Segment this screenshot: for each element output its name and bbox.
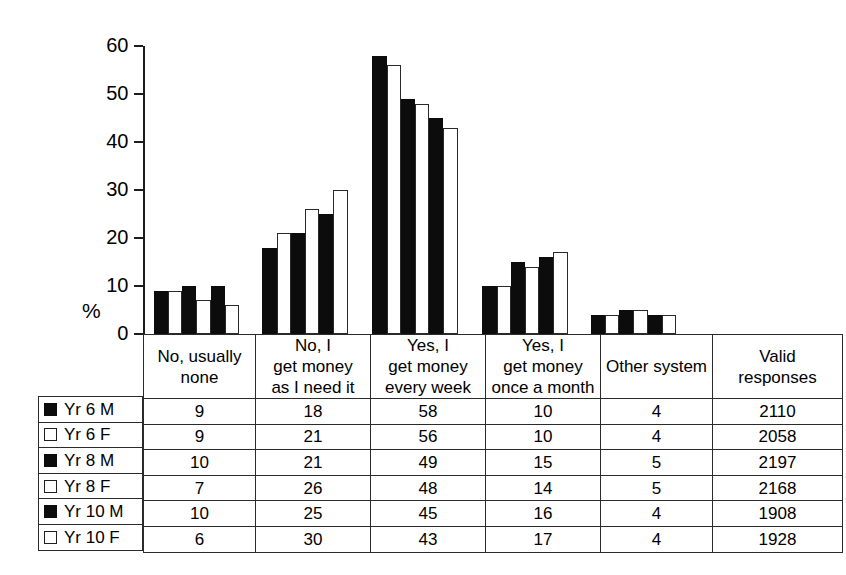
bar-group — [372, 46, 457, 334]
bar — [415, 104, 429, 334]
legend-label: Yr 8 F — [64, 476, 110, 497]
bar-group — [262, 46, 347, 334]
column-header-line: none — [146, 367, 253, 388]
table-cell: 4 — [601, 424, 713, 450]
table-cell: 2197 — [713, 450, 843, 476]
table-cell: 9 — [144, 424, 256, 450]
column-header-line: responses — [715, 367, 840, 388]
table-cell: 10 — [144, 501, 256, 527]
chart-figure: 6050403020100 % Yr 6 MYr 6 FYr 8 MYr 8 F… — [0, 0, 846, 575]
table-cell: 10 — [486, 399, 601, 425]
legend-label: Yr 6 F — [64, 424, 110, 445]
legend-entry: Yr 8 M — [39, 448, 143, 474]
column-header-line: get money — [258, 356, 368, 377]
table-row: 630431741928 — [144, 526, 843, 552]
table-cell: 6 — [144, 526, 256, 552]
bars-layer — [0, 0, 846, 334]
table-cell: 21 — [256, 450, 371, 476]
table-cell: 18 — [256, 399, 371, 425]
bar-group — [591, 46, 676, 334]
table-cell: 4 — [601, 399, 713, 425]
column-header-line: once a month — [488, 377, 598, 398]
table-cell: 49 — [371, 450, 486, 476]
column-header: Validresponses — [713, 335, 843, 399]
bar — [605, 315, 619, 334]
column-header: Other system — [601, 335, 713, 399]
bar — [429, 118, 443, 334]
legend-row: Yr 10 M — [39, 499, 143, 525]
legend-swatch-icon — [44, 428, 57, 441]
table-cell: 16 — [486, 501, 601, 527]
bar — [196, 300, 210, 334]
table-row: 726481452168 — [144, 475, 843, 501]
legend-label: Yr 10 F — [64, 527, 120, 548]
column-header-line: get money — [488, 356, 598, 377]
bar-group — [482, 46, 567, 334]
bar — [372, 56, 386, 334]
legend-row: Yr 6 F — [39, 422, 143, 448]
bar — [539, 257, 553, 334]
table-cell: 4 — [601, 501, 713, 527]
table-header-row: No, usuallynoneNo, Iget moneyas I need i… — [144, 335, 843, 399]
legend-swatch-icon — [44, 531, 57, 544]
bar — [154, 291, 168, 334]
bar — [168, 291, 182, 334]
table-cell: 2058 — [713, 424, 843, 450]
legend-swatch-icon — [44, 403, 57, 416]
bar — [319, 214, 333, 334]
table-cell: 1928 — [713, 526, 843, 552]
bar — [648, 315, 662, 334]
table-cell: 48 — [371, 475, 486, 501]
table-cell: 2168 — [713, 475, 843, 501]
table-row: 918581042110 — [144, 399, 843, 425]
legend-row: Yr 8 F — [39, 473, 143, 499]
column-header-line: No, usually — [146, 346, 253, 367]
bar — [511, 262, 525, 334]
table-row: 921561042058 — [144, 424, 843, 450]
bar — [591, 315, 605, 334]
column-header-line: Yes, I — [373, 335, 483, 356]
column-header: Yes, Iget moneyevery week — [371, 335, 486, 399]
bar-group — [154, 46, 239, 334]
legend-entry: Yr 6 F — [39, 422, 143, 448]
bar — [305, 209, 319, 334]
table-cell: 7 — [144, 475, 256, 501]
legend-entry: Yr 10 M — [39, 499, 143, 525]
bar — [443, 128, 457, 334]
bar — [553, 252, 567, 334]
column-header-line: as I need it — [258, 377, 368, 398]
bar — [525, 267, 539, 334]
legend-swatch-icon — [44, 505, 57, 518]
legend-row: Yr 8 M — [39, 448, 143, 474]
bar — [497, 286, 511, 334]
bar — [633, 310, 647, 334]
table-cell: 4 — [601, 526, 713, 552]
table-cell: 56 — [371, 424, 486, 450]
bar — [182, 286, 196, 334]
table-cell: 26 — [256, 475, 371, 501]
column-header-line: No, I — [258, 335, 368, 356]
column-header-line: get money — [373, 356, 483, 377]
table-cell: 14 — [486, 475, 601, 501]
legend-entry: Yr 10 F — [39, 524, 143, 550]
legend-table: Yr 6 MYr 6 FYr 8 MYr 8 FYr 10 MYr 10 F — [38, 396, 143, 551]
bar — [619, 310, 633, 334]
table-cell: 1908 — [713, 501, 843, 527]
legend-row: Yr 10 F — [39, 524, 143, 550]
bar — [211, 286, 225, 334]
legend-row: Yr 6 M — [39, 397, 143, 423]
legend-entry: Yr 8 F — [39, 473, 143, 499]
bar — [277, 233, 291, 334]
column-header: No, Iget moneyas I need it — [256, 335, 371, 399]
table-cell: 45 — [371, 501, 486, 527]
column-header-line: Yes, I — [488, 335, 598, 356]
table-cell: 10 — [486, 424, 601, 450]
table-cell: 2110 — [713, 399, 843, 425]
table-cell: 5 — [601, 475, 713, 501]
column-header: No, usuallynone — [144, 335, 256, 399]
table-cell: 5 — [601, 450, 713, 476]
legend-swatch-icon — [44, 480, 57, 493]
bar — [225, 305, 239, 334]
bar — [401, 99, 415, 334]
table-cell: 9 — [144, 399, 256, 425]
